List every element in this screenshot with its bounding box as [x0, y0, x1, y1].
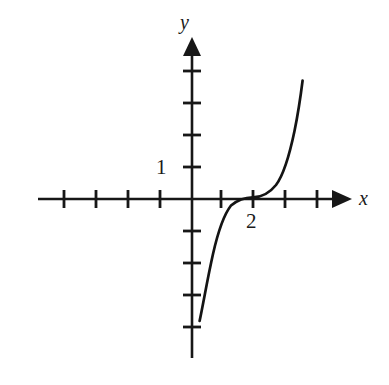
cartesian-plot: [0, 0, 389, 385]
x-axis-arrow-icon: [332, 190, 352, 208]
y-axis-arrow-icon: [183, 37, 201, 56]
x-axis-group: [38, 190, 352, 208]
y-axis-group: [183, 37, 201, 358]
y-axis-tick-label-1: 1: [156, 157, 167, 178]
x-axis-tick-label-2: 2: [246, 211, 257, 232]
cubic-curve: [200, 81, 303, 322]
x-axis-name-label: x: [359, 188, 368, 208]
y-axis-name-label: y: [180, 12, 189, 32]
graph-figure: 1 2 x y: [0, 0, 389, 385]
